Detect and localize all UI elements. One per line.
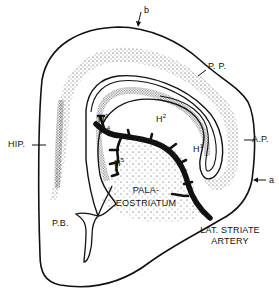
label-h3: H3: [98, 113, 108, 124]
label-artery-1: LAT. STRIATE: [190, 226, 270, 235]
label-hip: HIP.: [8, 140, 25, 149]
label-artery-2: ARTERY: [190, 237, 270, 246]
label-h5: H5: [114, 157, 124, 168]
brain-section-diagram: [0, 0, 279, 303]
label-palaeostriatum-1: PALA-: [116, 186, 176, 195]
label-h2: H2: [156, 113, 166, 124]
arrow-a-icon: [253, 178, 266, 183]
label-palaeostriatum-2: EOSTRIATUM: [104, 199, 188, 208]
label-pb: P.B.: [52, 219, 69, 228]
label-pp: P. P.: [208, 62, 226, 71]
pb-notch: [76, 213, 98, 262]
label-b: b: [144, 6, 149, 15]
label-h1: H1: [193, 143, 203, 154]
arrow-b-icon: [136, 12, 141, 27]
label-h4: H4: [100, 125, 110, 136]
label-a: a: [269, 176, 274, 185]
label-ap: A.P.: [252, 135, 269, 144]
